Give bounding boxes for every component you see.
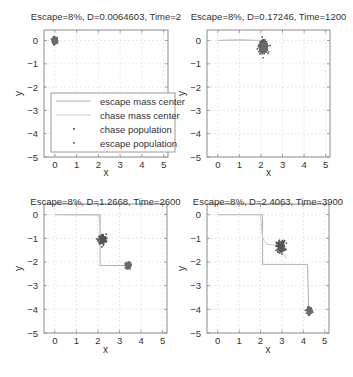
x-tick-label: 1: [237, 159, 242, 170]
x-axis-label: x: [103, 344, 108, 355]
y-tick-label: −4: [190, 128, 201, 139]
y-tick-label: −1: [190, 58, 201, 69]
escape-mass-center-line: [218, 215, 309, 311]
svg-text:escape population: escape population: [100, 138, 177, 149]
y-tick-label: −2: [27, 256, 38, 267]
subplot-title: Escape=8%, D=0.0064603, Time=2: [31, 11, 181, 22]
axes-box: [207, 30, 330, 157]
y-tick-label: −5: [27, 328, 38, 339]
x-tick-label: 2: [95, 335, 100, 346]
y-tick-label: −5: [27, 152, 38, 163]
y-tick-label: −3: [27, 280, 38, 291]
x-tick-label: 3: [279, 335, 284, 346]
chase-population-points: [96, 233, 108, 247]
y-tick-label: −5: [190, 328, 201, 339]
y-tick-label: −2: [27, 82, 38, 93]
x-tick-label: 5: [160, 335, 165, 346]
legend: escape mass centerchase mass centerchase…: [51, 93, 185, 152]
escape-mass-center-line: [218, 40, 263, 46]
subplot-title: Escape=8%, D=1.2668, Time=2600: [30, 196, 180, 207]
chase-mass-center-line: [55, 215, 101, 240]
subplot-time-3900: 0123450−1−2−3−4−5Escape=8%, D=2.4063, Ti…: [176, 196, 343, 355]
y-tick-label: 0: [33, 209, 38, 220]
subplot-time-2600: 0123450−1−2−3−4−5Escape=8%, D=1.2668, Ti…: [13, 196, 181, 355]
x-tick-label: 5: [161, 159, 166, 170]
chase-mass-center-line: [218, 215, 287, 259]
svg-text:escape mass center: escape mass center: [100, 96, 185, 107]
y-tick-label: −3: [190, 105, 201, 116]
x-tick-label: 1: [74, 335, 79, 346]
x-tick-label: 1: [236, 335, 241, 346]
y-tick-label: 0: [196, 35, 201, 46]
x-tick-label: 4: [138, 335, 143, 346]
y-tick-label: −1: [190, 233, 201, 244]
y-tick-label: −2: [190, 82, 201, 93]
escape-population-points: [305, 306, 314, 316]
axes-box: [44, 204, 167, 333]
x-tick-label: 3: [117, 335, 122, 346]
y-tick-label: −4: [190, 304, 201, 315]
x-tick-label: 2: [258, 159, 263, 170]
y-axis-label: y: [13, 91, 24, 96]
grid: [207, 30, 330, 157]
y-tick-label: −3: [190, 280, 201, 291]
y-tick-label: −1: [27, 233, 38, 244]
x-tick-label: 0: [52, 159, 57, 170]
x-tick-label: 1: [74, 159, 79, 170]
y-tick-label: −2: [190, 256, 201, 267]
y-tick-label: −3: [27, 105, 38, 116]
x-axis-label: x: [266, 344, 271, 355]
y-tick-label: −4: [27, 304, 38, 315]
grid: [44, 204, 167, 333]
x-tick-label: 3: [280, 159, 285, 170]
y-tick-label: 0: [196, 209, 201, 220]
y-tick-label: −5: [190, 152, 201, 163]
y-tick-label: 0: [33, 35, 38, 46]
svg-text:chase mass center: chase mass center: [100, 110, 180, 121]
x-tick-label: 2: [258, 335, 263, 346]
x-tick-label: 4: [301, 159, 306, 170]
x-tick-label: 4: [139, 159, 144, 170]
x-tick-label: 5: [323, 159, 328, 170]
escape-mass-center-line: [55, 215, 127, 266]
svg-text:chase population: chase population: [100, 124, 172, 135]
figure-canvas: 0123450−1−2−3−4−5Escape=8%, D=0.0064603,…: [0, 0, 353, 377]
chase-mass-center-line: [218, 40, 263, 44]
escape-population-points: [124, 261, 131, 270]
x-tick-label: 5: [322, 335, 327, 346]
x-axis-label: x: [104, 167, 109, 178]
x-tick-label: 0: [52, 335, 57, 346]
x-axis-label: x: [266, 167, 271, 178]
y-axis-label: y: [13, 266, 24, 271]
x-tick-label: 3: [117, 159, 122, 170]
subplot-title: Escape=8%, D=2.4063, Time=3900: [193, 196, 343, 207]
subplot-time-1200: 0123450−1−2−3−4−5Escape=8%, D=0.17246, T…: [176, 11, 346, 178]
x-tick-label: 0: [215, 335, 220, 346]
y-tick-label: −4: [27, 128, 38, 139]
subplot-title: Escape=8%, D=0.17246, Time=1200: [191, 11, 347, 22]
x-tick-label: 2: [96, 159, 101, 170]
chase-population-points: [275, 240, 287, 255]
y-tick-label: −1: [27, 58, 38, 69]
x-tick-label: 0: [215, 159, 220, 170]
y-axis-label: y: [176, 266, 187, 271]
x-tick-label: 4: [301, 335, 306, 346]
